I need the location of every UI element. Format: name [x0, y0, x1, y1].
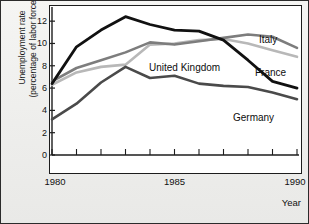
x-tick-label: 1985 — [164, 176, 185, 187]
y-tick-label: 4 — [31, 105, 47, 115]
x-tick-label: 1990 — [284, 176, 305, 187]
y-tick-label: 2 — [31, 128, 47, 138]
chart-figure: Unemployment rate (percentage of labor f… — [0, 0, 309, 224]
x-tick-label: 1980 — [44, 176, 65, 187]
y-tick-label: 12 — [31, 16, 47, 26]
series-label-united-kingdom: United Kingdom — [149, 62, 220, 73]
y-tick-label: 10 — [31, 38, 47, 48]
series-label-france: France — [255, 67, 286, 78]
series-label-germany: Germany — [233, 112, 274, 123]
y-tick-label: 0 — [31, 150, 47, 160]
x-axis-ticks — [52, 149, 299, 155]
y-tick-label: 8 — [31, 61, 47, 71]
plot-area — [49, 5, 302, 174]
series-label-italy: Italy — [259, 34, 277, 45]
chart-lines — [50, 6, 301, 173]
y-axis-tick-labels: 024681012 — [27, 1, 47, 224]
y-tick-label: 6 — [31, 83, 47, 93]
x-axis-title: Year — [1, 197, 301, 208]
x-axis-tick-labels: 198019851990 — [1, 176, 309, 190]
